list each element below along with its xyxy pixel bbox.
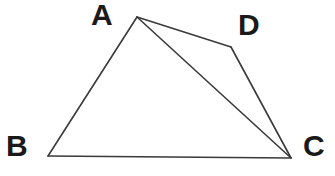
quadrilateral-drawing xyxy=(0,0,335,176)
vertex-label-c: C xyxy=(303,131,325,161)
geometry-figure: A B C D xyxy=(0,0,335,176)
vertex-label-a: A xyxy=(91,0,113,30)
vertex-label-d: D xyxy=(238,10,260,40)
vertex-label-b: B xyxy=(6,131,28,161)
